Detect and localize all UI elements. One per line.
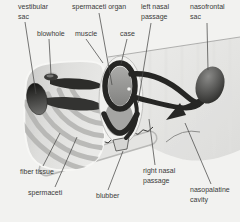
label-blubber: blubber xyxy=(96,191,119,201)
spermaceti-organ-shape xyxy=(108,67,132,106)
label-left-nasal-passage: left nasal passage xyxy=(141,2,169,22)
label-right-nasal-passage: right nasal passage xyxy=(143,166,175,186)
label-muscle: muscle xyxy=(75,29,97,39)
label-fiber-tissue: fiber tissue xyxy=(20,167,54,177)
whale-head-anatomy-diagram: vestibular sac spermaceti organ left nas… xyxy=(0,0,240,222)
label-nasofrontal-sac: nasofrontal sac xyxy=(190,2,225,22)
label-spermaceti: spermaceti xyxy=(28,188,62,198)
label-spermaceti-organ: spermaceti organ xyxy=(72,2,126,12)
label-blowhole: blowhole xyxy=(37,29,65,39)
label-nasopalatine-cavity: nasopalatine cavity xyxy=(190,185,230,205)
leader-muscle xyxy=(86,39,103,63)
label-vestibular-sac: vestibular sac xyxy=(18,2,48,22)
label-case: case xyxy=(120,29,135,39)
organ-highlight-dot xyxy=(127,87,131,91)
